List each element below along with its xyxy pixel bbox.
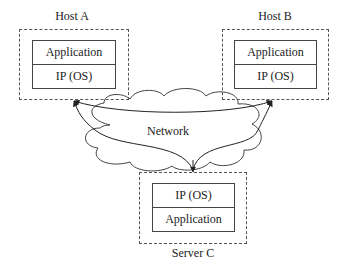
network-label: Network	[147, 124, 189, 139]
server-c-layer-ip: IP (OS)	[153, 184, 234, 208]
host-a-layer-ip: IP (OS)	[33, 65, 115, 89]
host-b-layer-application: Application	[235, 41, 316, 65]
server-c-label: Server C	[160, 246, 226, 261]
host-a-label: Host A	[42, 9, 102, 24]
host-a-layer-application: Application	[33, 41, 115, 65]
host-b-label: Host B	[245, 9, 305, 24]
server-c-layer-application: Application	[153, 208, 234, 232]
server-c-stack: IP (OS) Application	[152, 183, 235, 232]
host-b-stack: Application IP (OS)	[234, 40, 317, 89]
host-a-stack: Application IP (OS)	[32, 40, 116, 89]
host-b-layer-ip: IP (OS)	[235, 65, 316, 89]
